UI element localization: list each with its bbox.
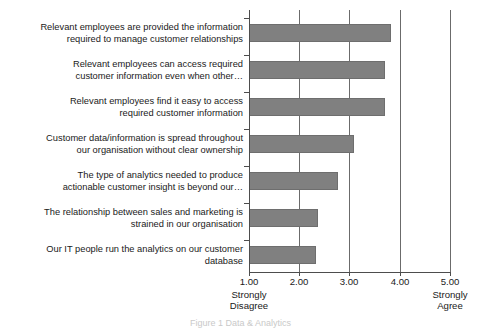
bars-layer — [249, 10, 451, 272]
y-axis-tick — [244, 129, 249, 130]
x-axis-tick-label: 5.00 — [427, 276, 473, 287]
category-label: Relevant employees can access required c… — [6, 59, 243, 82]
category-labels: Relevant employees are provided the info… — [0, 10, 243, 272]
x-axis-line — [249, 272, 451, 273]
x-axis-tick-label: 3.00 — [326, 276, 372, 287]
category-label: Customer data/information is spread thro… — [6, 133, 243, 156]
category-label: Relevant employees find it easy to acces… — [6, 96, 243, 119]
x-axis-tick-label: 2.00 — [276, 276, 322, 287]
scale-anchor-low: Strongly Disagree — [214, 289, 284, 312]
y-axis-tick — [244, 240, 249, 241]
x-axis-tick-label: 1.00 — [226, 276, 272, 287]
bar — [249, 172, 338, 190]
bar — [249, 209, 318, 227]
y-axis-tick — [244, 203, 249, 204]
gridline-4 — [400, 10, 401, 272]
figure-container: Relevant employees are provided the info… — [0, 0, 481, 328]
bar — [249, 98, 385, 116]
y-axis-tick — [244, 18, 249, 19]
category-label: The type of analytics needed to produce … — [6, 170, 243, 193]
bar — [249, 61, 385, 79]
x-axis-tick-label: 4.00 — [377, 276, 423, 287]
category-label: The relationship between sales and marke… — [6, 207, 243, 230]
scale-anchor-high: Strongly Agree — [415, 289, 481, 312]
figure-caption: Figure 1 Data & Analytics — [0, 318, 481, 328]
category-label: Our IT people run the analytics on our c… — [6, 244, 243, 267]
plot-area: Relevant employees are provided the info… — [0, 10, 481, 272]
y-axis-line — [249, 10, 250, 272]
y-axis-tick — [244, 166, 249, 167]
bar — [249, 135, 354, 153]
y-axis-tick — [244, 55, 249, 56]
bar — [249, 24, 391, 42]
bar — [249, 246, 316, 264]
category-label: Relevant employees are provided the info… — [6, 22, 243, 45]
y-axis-tick — [244, 92, 249, 93]
gridline-5 — [450, 10, 451, 272]
